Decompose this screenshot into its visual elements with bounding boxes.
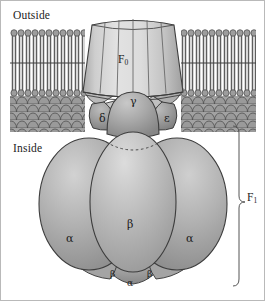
- label-f0-subunit: F0: [118, 54, 128, 66]
- label-alpha-right-subunit: α: [186, 233, 193, 244]
- f1-bracket: [233, 126, 245, 286]
- label-beta-subunit: β: [127, 219, 133, 230]
- label-alpha-bottom-subunit: α: [127, 279, 133, 288]
- f0-barrel: [83, 19, 183, 97]
- atp-synthase-figure: Outside Inside F0 F1 γ δ ε β α α β β α: [0, 0, 266, 302]
- label-f0-subscript: 0: [124, 58, 128, 67]
- membrane-left: [10, 28, 87, 132]
- label-gamma-subunit: γ: [130, 96, 137, 107]
- label-beta-bottom-right-subunit: β: [147, 270, 152, 279]
- label-inside: Inside: [13, 143, 42, 155]
- label-beta-bottom-left-subunit: β: [110, 270, 115, 279]
- membrane-right: [181, 28, 257, 132]
- label-outside: Outside: [13, 10, 50, 22]
- label-delta-subunit: δ: [99, 113, 106, 124]
- label-f1-subunit: F1: [247, 192, 257, 204]
- label-epsilon-subunit: ε: [164, 113, 170, 124]
- f1-beta-subunit: [90, 132, 176, 272]
- label-f1-subscript: 1: [253, 196, 257, 205]
- label-alpha-left-subunit: α: [66, 233, 73, 244]
